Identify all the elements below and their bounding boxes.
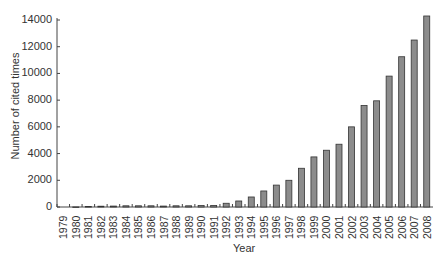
bar-1980	[73, 207, 79, 208]
bar-2004	[374, 101, 380, 207]
y-axis-label: Number of cited times	[9, 41, 21, 171]
bar-chart: 0200040006000800010000120001400019791980…	[0, 0, 442, 261]
bar-2007	[411, 40, 417, 207]
bar-1993	[236, 201, 242, 207]
bar-2002	[349, 127, 355, 207]
bar-1981	[85, 207, 91, 208]
bar-1992	[223, 203, 229, 207]
bar-1989	[186, 206, 192, 207]
bar-1998	[298, 168, 304, 207]
bar-2008	[424, 16, 430, 207]
bar-2003	[361, 105, 367, 207]
bar-1983	[110, 206, 116, 207]
bar-1999	[311, 157, 317, 207]
bar-1988	[173, 206, 179, 207]
bar-1994	[248, 197, 254, 207]
bar-1982	[98, 206, 104, 207]
bar-2000	[323, 150, 329, 207]
x-axis-label: Year	[233, 242, 255, 254]
bar-1995	[261, 191, 267, 207]
bar-1986	[148, 206, 154, 207]
bar-1997	[286, 180, 292, 207]
bar-2005	[386, 76, 392, 207]
bar-1985	[135, 206, 141, 207]
bar-1990	[198, 206, 204, 207]
bar-2006	[399, 57, 405, 207]
plot-area	[0, 0, 442, 261]
bar-1991	[211, 205, 217, 207]
bar-1984	[123, 206, 129, 207]
bar-1996	[273, 185, 279, 207]
bar-2001	[336, 144, 342, 207]
bar-1987	[161, 206, 167, 207]
